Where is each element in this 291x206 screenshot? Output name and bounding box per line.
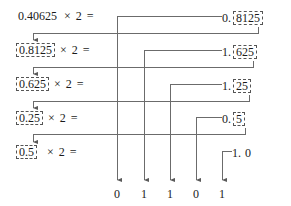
row-2-operand: 0.8125 × 2 =	[16, 41, 91, 59]
result-fraction-3: 25	[233, 79, 251, 93]
binary-digit-4: 0	[190, 188, 202, 200]
row-3-result: 1. 25	[222, 77, 251, 95]
operand-value-1: 0.40625	[16, 10, 59, 22]
binary-digit-3: 1	[164, 188, 176, 200]
result-integer-3: 1.	[222, 80, 231, 92]
result-fraction-4: 5	[233, 112, 245, 126]
conversion-diagram: 0.40625 × 2 = 0.8125 × 2 = 0.625 × 2 = 0…	[0, 0, 291, 206]
bit-wire-2	[144, 50, 222, 180]
feedback-wire-2	[33, 61, 253, 74]
operation-label-1: × 2 =	[64, 10, 95, 22]
row-1-operand: 0.40625 × 2 =	[16, 7, 95, 25]
operand-value-4: 0.25	[16, 111, 43, 125]
row-4-operand: 0.25 × 2 =	[16, 109, 79, 127]
binary-digit-1: 0	[111, 188, 123, 200]
result-integer-5: 1.	[232, 147, 241, 159]
result-integer-2: 1.	[222, 46, 231, 58]
operation-label-5: × 2 =	[47, 146, 78, 158]
bit-wire-5	[222, 151, 232, 180]
result-integer-4: 0.	[222, 113, 231, 125]
binary-digit-5: 1	[216, 188, 228, 200]
bit-wire-4	[196, 117, 222, 180]
feedback-wire-1	[33, 27, 258, 40]
operand-value-2: 0.8125	[16, 43, 55, 57]
row-5-operand: 0.5 × 2 =	[16, 143, 78, 161]
result-fraction-5: 0	[243, 147, 253, 159]
feedback-wire-4	[33, 128, 245, 142]
row-5-result: 1. 0	[232, 144, 253, 162]
row-4-result: 0. 5	[222, 110, 245, 128]
wire-layer	[0, 0, 291, 206]
operation-label-4: × 2 =	[48, 112, 79, 124]
result-integer-1: 0.	[222, 12, 231, 24]
row-2-result: 1. 625	[222, 43, 257, 61]
operand-value-3: 0.625	[16, 77, 49, 91]
row-3-operand: 0.625 × 2 =	[16, 75, 85, 93]
feedback-wire-3	[33, 95, 249, 108]
operation-label-3: × 2 =	[54, 78, 85, 90]
binary-digit-2: 1	[138, 188, 150, 200]
operation-label-2: × 2 =	[60, 44, 91, 56]
operand-value-5: 0.5	[16, 145, 37, 159]
row-1-result: 0. 8125	[222, 9, 263, 27]
result-fraction-2: 625	[233, 45, 257, 59]
result-fraction-1: 8125	[233, 11, 263, 25]
binary-digit-row: 0 1 1 0 1	[0, 188, 291, 204]
